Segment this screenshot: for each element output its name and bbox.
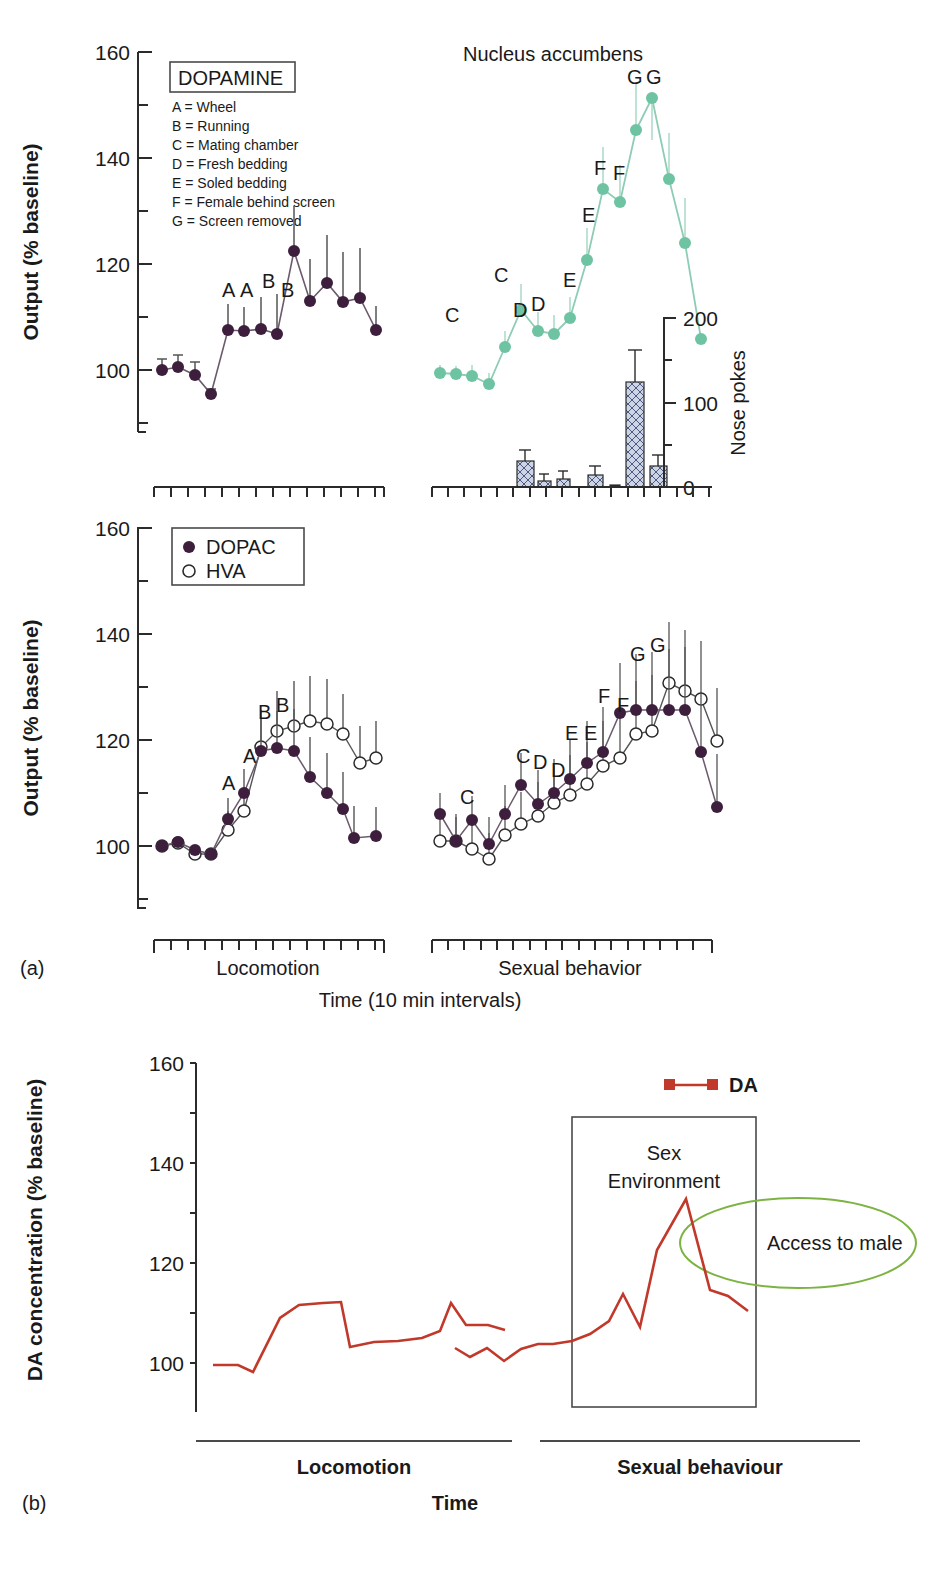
sex-environment-label-line1: Sex: [647, 1142, 681, 1164]
panel-b-xlabel: Time: [432, 1492, 478, 1514]
event-letter: C: [494, 264, 508, 286]
panel-b-locomotion-line: [213, 1302, 505, 1372]
panel-a-top-title: Nucleus accumbens: [463, 43, 643, 65]
nose-pokes-bars: [517, 350, 667, 487]
nose-pokes-axis-label: Nose pokes: [727, 350, 749, 456]
sex-environment-label-line2: Environment: [608, 1170, 721, 1192]
event-letter: B: [258, 701, 271, 723]
panel-a-bottom-ylabel: Output (% baseline): [19, 619, 42, 816]
dopac-markers: [156, 742, 382, 860]
legend-item: F = Female behind screen: [172, 194, 335, 210]
ytick-label: 120: [95, 729, 130, 752]
nose-pokes-axis: 200 100 0 Nose pokes: [664, 307, 749, 499]
event-letter: F: [617, 694, 629, 716]
panel-b-chart: 160 140 120 100 DA concentration (% base…: [22, 1052, 916, 1514]
panel-a-top-yaxis: 160 140 120 100 Output (% baseline): [19, 41, 152, 432]
ytick-label: 160: [149, 1052, 184, 1075]
event-letter: F: [598, 685, 610, 707]
event-letter: B: [281, 279, 294, 301]
panel-a-top-xaxis: [154, 487, 712, 497]
event-letter: D: [533, 751, 547, 773]
event-letter: G: [630, 643, 646, 665]
dopamine-legend: DOPAMINE A = Wheel B = Running C = Matin…: [170, 62, 335, 229]
legend-item: E = Soled bedding: [172, 175, 287, 191]
legend-label-dopac: DOPAC: [206, 536, 276, 558]
event-letter: C: [516, 745, 530, 767]
panel-a-top-locomotion-series: A A B B: [156, 206, 382, 400]
event-letter: G: [646, 66, 662, 88]
panel-a-bottom-yaxis: 160 140 120 100 Output (% baseline): [19, 517, 152, 908]
figure-root: 160 140 120 100 Output (% baseline) Nucl…: [0, 0, 951, 1581]
dopamine-legend-title: DOPAMINE: [178, 67, 283, 89]
panel-a-bottom-loco-dopac: A A B B: [156, 694, 382, 860]
event-letter: D: [551, 759, 565, 781]
legend-item: B = Running: [172, 118, 249, 134]
legend-item: G = Screen removed: [172, 213, 302, 229]
nose-pokes-tick: 100: [683, 392, 718, 415]
event-letter: A: [222, 279, 236, 301]
event-letter: C: [460, 786, 474, 808]
dopamine-markers: [156, 245, 382, 400]
ytick-label: 100: [149, 1352, 184, 1375]
ytick-label: 140: [95, 147, 130, 170]
event-letter: D: [513, 299, 527, 321]
panel-a-bottom-xaxis: Locomotion Sexual behavior Time (10 min …: [154, 940, 712, 1011]
ytick-label: 100: [95, 359, 130, 382]
event-letter: B: [276, 694, 289, 716]
event-letter: E: [582, 204, 595, 226]
event-letter: A: [240, 279, 254, 301]
dopamine-green-markers: [434, 92, 707, 390]
event-letter: G: [627, 66, 643, 88]
event-letter: A: [222, 772, 236, 794]
event-letter: A: [243, 745, 257, 767]
panel-a-top-chart: 160 140 120 100 Output (% baseline) Nucl…: [19, 41, 749, 499]
ytick-label: 120: [95, 253, 130, 276]
panel-a-top-ylabel: Output (% baseline): [19, 143, 42, 340]
event-letter: G: [650, 634, 666, 656]
access-to-male-annotation: Access to male: [680, 1198, 916, 1288]
panel-a-xlabel: Time (10 min intervals): [319, 989, 522, 1011]
xgroup-sexual-behaviour: Sexual behaviour: [617, 1456, 783, 1478]
event-letter: E: [563, 269, 576, 291]
legend-item: A = Wheel: [172, 99, 236, 115]
ytick-label: 120: [149, 1252, 184, 1275]
access-to-male-label: Access to male: [767, 1232, 903, 1254]
panel-a-label: (a): [20, 957, 44, 979]
panel-b-sexual-line: [455, 1199, 748, 1361]
sex-environment-box: Sex Environment: [572, 1117, 756, 1407]
figure-svg: 160 140 120 100 Output (% baseline) Nucl…: [0, 0, 951, 1581]
xgroup-sexual-behavior: Sexual behavior: [498, 957, 642, 979]
event-letter: B: [262, 270, 275, 292]
event-letter: F: [613, 162, 625, 184]
panel-a-top-sexual-series: C C D D E E F F G G: [434, 66, 707, 390]
event-letter: C: [445, 304, 459, 326]
panel-a-bottom-chart: 160 140 120 100 Output (% baseline) DOPA…: [19, 517, 723, 1011]
legend-label-hva: HVA: [206, 560, 246, 582]
da-legend-label: DA: [729, 1074, 758, 1096]
event-letter: E: [565, 722, 578, 744]
dopac-hva-legend: DOPAC HVA: [172, 528, 304, 585]
panel-b-yaxis: 160 140 120 100 DA concentration (% base…: [23, 1052, 196, 1412]
panel-b-label: (b): [22, 1492, 46, 1514]
xgroup-locomotion: Locomotion: [216, 957, 319, 979]
nose-pokes-tick: 200: [683, 307, 718, 330]
event-letter: E: [584, 722, 597, 744]
da-legend: DA: [664, 1074, 758, 1096]
event-letter: D: [531, 293, 545, 315]
legend-item: D = Fresh bedding: [172, 156, 288, 172]
event-letter: F: [594, 157, 606, 179]
ytick-label: 140: [95, 623, 130, 646]
panel-a-bottom-sex-dopac: C C D D E E F F G G: [434, 634, 723, 850]
xgroup-locomotion: Locomotion: [297, 1456, 411, 1478]
dopac-legend-marker: [183, 541, 195, 553]
panel-b-xaxis: Locomotion Sexual behaviour Time: [196, 1441, 860, 1514]
hva-legend-marker: [183, 565, 195, 577]
ytick-label: 140: [149, 1152, 184, 1175]
panel-b-ylabel: DA concentration (% baseline): [23, 1079, 46, 1382]
legend-item: C = Mating chamber: [172, 137, 299, 153]
ytick-label: 100: [95, 835, 130, 858]
ytick-label: 160: [95, 41, 130, 64]
ytick-label: 160: [95, 517, 130, 540]
